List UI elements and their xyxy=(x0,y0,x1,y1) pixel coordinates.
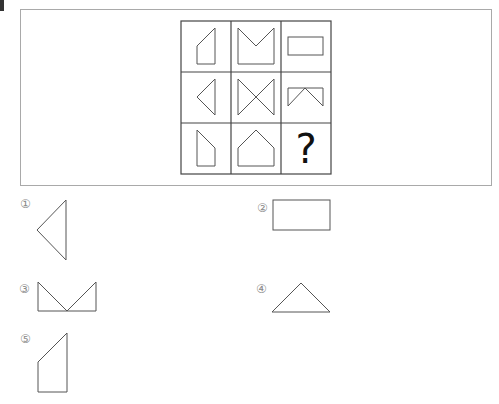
option-5-label[interactable]: ⑤ xyxy=(20,333,31,345)
option-1-shape[interactable] xyxy=(37,200,66,260)
puzzle-figures xyxy=(0,0,499,404)
cell-3-2-shape xyxy=(238,130,274,166)
option-4-label[interactable]: ④ xyxy=(256,283,267,295)
option-1-label[interactable]: ① xyxy=(20,198,31,210)
cell-2-1-shape xyxy=(197,79,215,115)
cell-2-2-shape xyxy=(238,79,274,115)
cell-1-2-shape xyxy=(238,28,274,64)
option-4-shape[interactable] xyxy=(272,283,330,312)
cell-1-3-shape xyxy=(288,37,323,55)
option-3-shape[interactable] xyxy=(38,282,96,311)
cell-2-3-shape xyxy=(288,88,323,106)
option-3-label[interactable]: ③ xyxy=(19,283,30,295)
missing-cell-question-mark: ? xyxy=(281,123,331,174)
cell-3-1-shape xyxy=(197,130,215,166)
option-2-label[interactable]: ② xyxy=(257,202,268,214)
option-2-shape[interactable] xyxy=(273,200,330,230)
cell-1-1-shape xyxy=(197,28,215,64)
option-5-shape[interactable] xyxy=(38,333,67,392)
